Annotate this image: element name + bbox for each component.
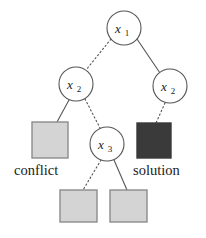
edge-x2-left-to-conflict — [57, 100, 69, 122]
node-x3-subscript: 3 — [108, 144, 113, 154]
node-x2-right-subscript: 2 — [171, 86, 176, 96]
figure-root: x 1 x 2 x 2 x 3 conflict solution — [0, 0, 206, 238]
leaf-solution-square[interactable] — [137, 123, 171, 158]
leaf-bottom-right-square[interactable] — [110, 190, 147, 222]
node-root-subscript: 1 — [125, 28, 130, 38]
edge-root-to-x2-left — [86, 39, 111, 70]
node-x2-right-var: x — [160, 79, 167, 94]
node-root[interactable]: x 1 — [107, 11, 141, 45]
edge-x3-to-bottom-left — [83, 160, 101, 190]
edge-root-to-x2-right — [137, 39, 160, 73]
node-x2-right[interactable]: x 2 — [153, 69, 187, 103]
node-x3[interactable]: x 3 — [90, 127, 124, 161]
caption-group: conflict solution — [14, 162, 180, 178]
search-tree-diagram: x 1 x 2 x 2 x 3 conflict solution — [0, 0, 206, 238]
edge-x3-to-bottom-right — [114, 160, 127, 190]
node-x2-left-var: x — [66, 77, 73, 92]
edge-x2-right-to-solution — [156, 103, 165, 123]
edge-x2-left-to-x3 — [85, 99, 100, 128]
node-x2-left[interactable]: x 2 — [59, 67, 93, 101]
node-x3-var: x — [97, 137, 104, 152]
node-x2-left-subscript: 2 — [77, 84, 82, 94]
caption-solution: solution — [133, 162, 180, 178]
node-root-var: x — [114, 21, 121, 36]
leaf-conflict-square[interactable] — [32, 122, 68, 158]
leaf-bottom-left-square[interactable] — [60, 190, 97, 222]
caption-conflict: conflict — [14, 162, 58, 178]
